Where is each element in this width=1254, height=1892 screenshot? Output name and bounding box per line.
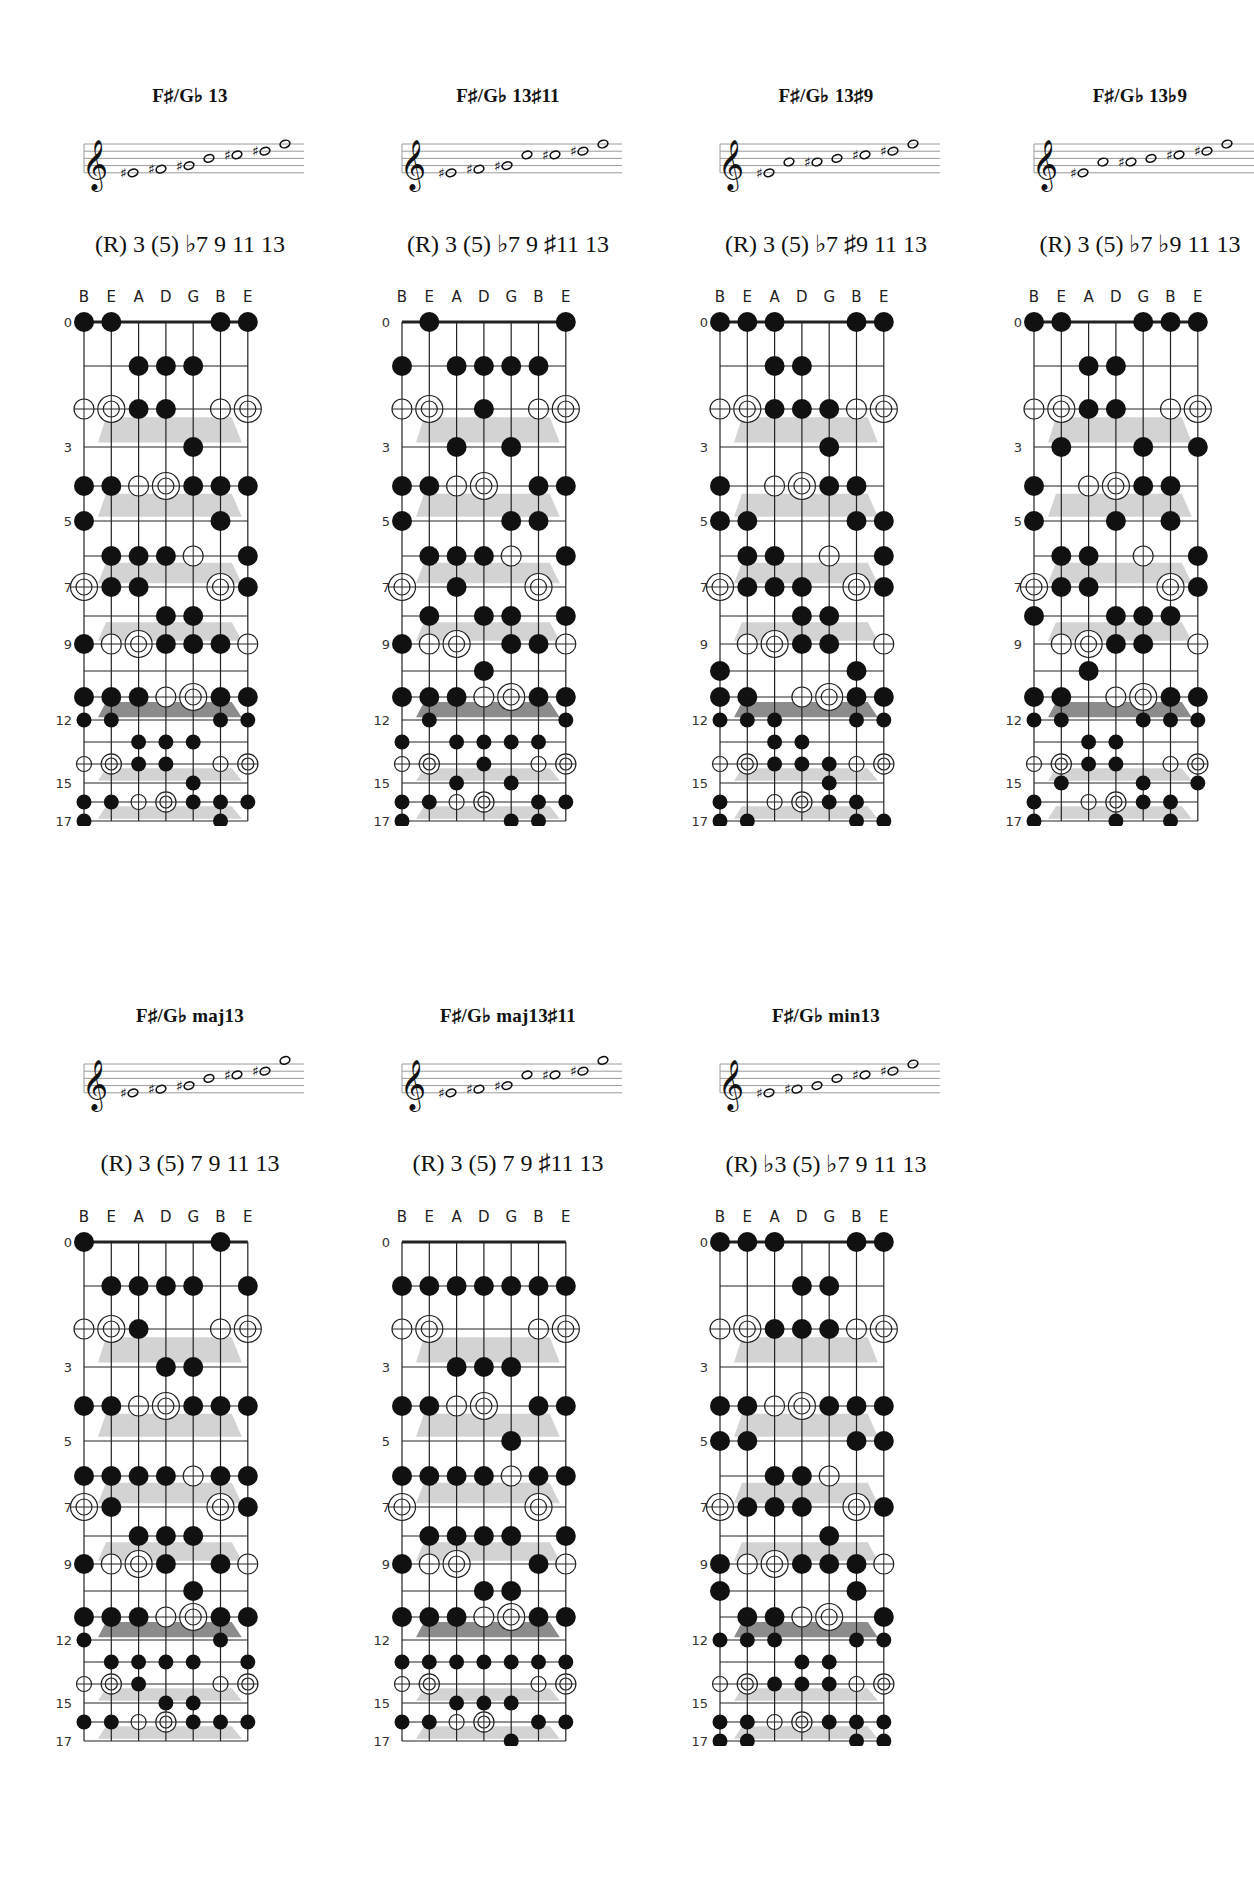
note-dot-filled: [240, 795, 255, 810]
chord-intervals: (R) 3 (5) ♭7 ♯9 11 13: [676, 230, 976, 258]
note-dot-filled: [529, 1466, 549, 1486]
note-dot-filled: [529, 1396, 549, 1416]
note-dot-filled: [101, 1497, 121, 1517]
note-dot-filled: [392, 476, 412, 496]
note-dot-filled: [211, 1466, 231, 1486]
note-dot-filled: [1136, 795, 1151, 810]
note-dot-filled: [1051, 546, 1071, 566]
note-dot-filled: [767, 735, 782, 750]
note-dot-filled: [819, 399, 839, 419]
fret-number: 9: [700, 637, 708, 652]
note-dot-filled: [713, 795, 728, 810]
string-label: A: [1083, 288, 1094, 306]
note-dot-filled: [849, 713, 864, 728]
note-dot-filled: [395, 814, 410, 827]
string-label: E: [107, 1208, 116, 1226]
note-dot-filled: [129, 577, 149, 597]
note-dot-filled: [104, 1655, 119, 1670]
note-dot-filled: [501, 1526, 521, 1546]
note-dot-filled: [392, 1396, 412, 1416]
string-label: E: [879, 288, 888, 306]
note-dot-filled: [501, 634, 521, 654]
note-dot-filled: [211, 476, 231, 496]
note-dot-filled: [1190, 776, 1205, 791]
note-dot-filled: [447, 577, 467, 597]
note-dot-filled: [238, 687, 258, 707]
fret-number: 12: [691, 1633, 708, 1648]
note-dot-filled: [1106, 606, 1126, 626]
note-dot-filled: [129, 1319, 149, 1339]
note-dot-filled: [1188, 312, 1208, 332]
note-dot-filled: [1161, 687, 1181, 707]
string-label: A: [769, 288, 780, 306]
note-dot-filled: [156, 1554, 176, 1574]
note-dot-filled: [822, 776, 837, 791]
note-dot-filled: [1106, 511, 1126, 531]
fret-number: 15: [55, 776, 72, 791]
note-dot-filled: [874, 1431, 894, 1451]
string-label: D: [1110, 288, 1122, 306]
string-label: D: [796, 288, 808, 306]
fret-number: 3: [64, 440, 72, 455]
note-dot-filled: [1024, 687, 1044, 707]
note-dot-filled: [74, 1607, 94, 1627]
fret-number: 12: [373, 713, 390, 728]
note-dot-filled: [531, 795, 546, 810]
note-dot-filled: [186, 735, 201, 750]
fret-number: 5: [64, 1434, 72, 1449]
note-dot-filled: [819, 1319, 839, 1339]
note-dot-filled: [211, 312, 231, 332]
note-dot-filled: [238, 1607, 258, 1627]
note-dot-filled: [765, 1607, 785, 1627]
note-dot-filled: [847, 1396, 867, 1416]
string-label: E: [107, 288, 116, 306]
string-label: B: [533, 288, 543, 306]
note-dot-filled: [874, 1497, 894, 1517]
fretboard: BEADGBE03579121517: [50, 1206, 290, 1746]
note-dot-filled: [1106, 399, 1126, 419]
note-dot-filled: [392, 356, 412, 376]
note-dot-filled: [419, 312, 439, 332]
note-dot-filled: [1106, 356, 1126, 376]
note-dot-filled: [874, 1232, 894, 1252]
fret-number: 0: [700, 1235, 708, 1250]
note-dot-filled: [1079, 356, 1099, 376]
note-dot-filled: [558, 795, 573, 810]
note-dot-filled: [186, 776, 201, 791]
note-dot-filled: [158, 735, 173, 750]
note-dot-filled: [792, 1497, 812, 1517]
note-dot-filled: [447, 1607, 467, 1627]
string-label: G: [187, 1208, 199, 1226]
note-dot-filled: [1190, 713, 1205, 728]
string-label: D: [478, 1208, 490, 1226]
note-dot-filled: [1161, 312, 1181, 332]
note-dot-filled: [447, 356, 467, 376]
note-dot-filled: [395, 1715, 410, 1730]
note-dot-filled: [501, 1581, 521, 1601]
sharp-icon: ♯: [756, 165, 763, 181]
note-dot-filled: [449, 735, 464, 750]
note-dot-filled: [183, 476, 203, 496]
note-dot-filled: [422, 795, 437, 810]
note-dot-filled: [849, 1633, 864, 1648]
note-dot-filled: [101, 546, 121, 566]
note-dot-filled: [792, 1319, 812, 1339]
note-dot-filled: [556, 1276, 576, 1296]
fret-number: 5: [64, 514, 72, 529]
string-label: E: [743, 288, 752, 306]
fret-number: 9: [382, 637, 390, 652]
note-dot-filled: [529, 634, 549, 654]
note-dot-filled: [501, 606, 521, 626]
string-label: B: [79, 288, 89, 306]
note-dot-filled: [156, 1276, 176, 1296]
fret-number: 12: [373, 1633, 390, 1648]
note-dot-filled: [876, 1633, 891, 1648]
note-dot-filled: [101, 476, 121, 496]
note-dot-filled: [74, 1466, 94, 1486]
sharp-icon: ♯: [1166, 147, 1173, 163]
fret-number: 17: [691, 1734, 708, 1746]
note-dot-filled: [1188, 577, 1208, 597]
note-dot-filled: [131, 1677, 146, 1692]
note-dot-filled: [156, 1357, 176, 1377]
note-dot-filled: [156, 546, 176, 566]
